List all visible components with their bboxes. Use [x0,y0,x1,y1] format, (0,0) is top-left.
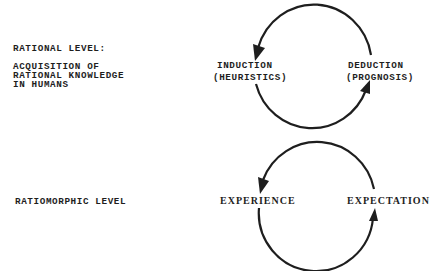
prognosis-label: (PROGNOSIS) [346,73,414,82]
deduction-label: DEDUCTION [348,61,404,70]
expectation-label: EXPECTATION [347,196,430,205]
arrowhead-up-icon [369,208,378,221]
rational-level-title: RATIONAL LEVEL: [13,44,106,53]
cycle-diagram [0,0,430,271]
ratiomorphic-cycle [259,142,374,271]
induction-label: INDUCTION [217,61,273,70]
ratiomorphic-upper-arc [263,142,374,189]
experience-label: EXPERIENCE [220,196,296,205]
rational-upper-arc [258,5,371,55]
heuristics-label: (HEURISTICS) [213,73,287,82]
ratiomorphic-level-title: RATIOMORPHIC LEVEL [15,197,126,206]
arrowhead-down-icon [258,177,269,194]
rational-lower-arc [256,84,366,128]
rational-description-line-3: IN HUMANS [13,80,69,89]
ratiomorphic-lower-arc [259,208,373,271]
arrowhead-down-icon [253,44,265,61]
